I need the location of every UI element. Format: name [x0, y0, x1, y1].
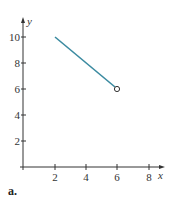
y-axis-arrow-icon	[21, 17, 25, 23]
data-line-segment	[55, 37, 115, 87]
y-axis-label: y	[26, 15, 32, 27]
y-tick-8: 8	[15, 57, 21, 69]
y-tick-4: 4	[15, 109, 21, 121]
y-tick-2: 2	[15, 135, 21, 147]
x-tick-2: 2	[52, 171, 58, 183]
panel-label: a.	[8, 184, 17, 197]
x-tick-8: 8	[146, 171, 152, 183]
y-tick-6: 6	[15, 83, 21, 95]
y-tick-10: 10	[9, 31, 21, 43]
x-axis-label: x	[157, 169, 163, 181]
chart: 10 8 6 4 2 2 4 6 8 y x a.	[0, 0, 179, 197]
x-tick-6: 6	[114, 171, 120, 183]
open-circle-endpoint-icon	[114, 86, 119, 91]
x-tick-4: 4	[83, 171, 89, 183]
